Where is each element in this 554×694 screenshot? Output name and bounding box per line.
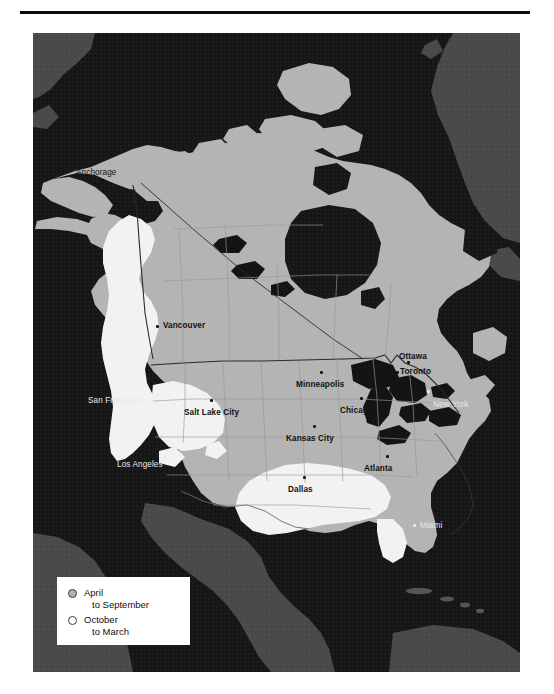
city-marker-dot [210, 399, 213, 402]
legend-swatch-filled-icon [68, 589, 77, 598]
city-marker-dot [360, 397, 363, 400]
city-marker-dot [407, 361, 410, 364]
legend-item-label: October to March [84, 614, 129, 637]
city-marker-dot [303, 476, 306, 479]
legend-line-2: to March [92, 626, 129, 638]
legend-line-1: October [84, 614, 129, 626]
legend-item-october-march[interactable]: October to March [68, 614, 129, 637]
legend-swatch-hollow-icon [68, 616, 77, 625]
legend-item-label: April to September [84, 587, 149, 610]
city-marker-dot [320, 371, 323, 374]
city-marker-dot [156, 325, 159, 328]
page-root: AnchorageVancouverSan FranciscoLos Angel… [0, 0, 554, 694]
city-marker-dot [101, 179, 104, 182]
city-marker-dot [413, 524, 416, 527]
city-marker-dot [396, 371, 399, 374]
legend-line-1: April [84, 587, 149, 599]
city-marker-dot [163, 455, 166, 458]
city-marker-dot [313, 425, 316, 428]
city-marker-dot [386, 455, 389, 458]
city-marker-dot [427, 390, 430, 393]
top-divider-rule [20, 11, 530, 14]
legend-line-2: to September [92, 599, 149, 611]
city-marker-dot [156, 394, 159, 397]
legend-item-april-september[interactable]: April to September [68, 587, 149, 610]
map-legend[interactable]: April to September October to March [57, 577, 190, 645]
